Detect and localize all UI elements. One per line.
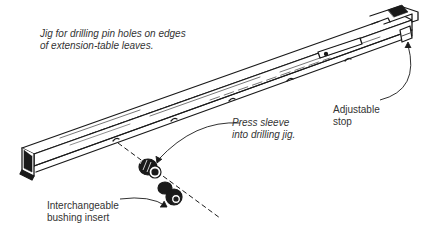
callout-adjustable-stop-line-1: Adjustable — [333, 104, 380, 116]
callout-adjustable-stop: Adjustable stop — [333, 104, 380, 128]
bushing-insert — [158, 182, 182, 205]
caption-line-1: Jig for drilling pin holes on edges — [40, 28, 186, 40]
caption-line-2: of extension-table leaves. — [40, 40, 186, 52]
callout-press-sleeve: Press sleeve into drilling jig. — [232, 117, 295, 141]
leader-adjustable-stop — [380, 45, 411, 100]
callout-bushing-insert: Interchangeable bushing insert — [47, 200, 119, 224]
callout-adjustable-stop-line-2: stop — [333, 116, 380, 128]
drill-axis-line — [118, 143, 220, 218]
callout-bushing-insert-line-1: Interchangeable — [47, 200, 119, 212]
leader-press-sleeve — [158, 123, 240, 160]
leader-bushing-insert — [120, 198, 166, 206]
callout-press-sleeve-line-2: into drilling jig. — [232, 129, 295, 141]
callout-press-sleeve-line-1: Press sleeve — [232, 117, 295, 129]
callout-bushing-insert-line-2: bushing insert — [47, 212, 119, 224]
figure-caption: Jig for drilling pin holes on edges of e… — [40, 28, 186, 52]
